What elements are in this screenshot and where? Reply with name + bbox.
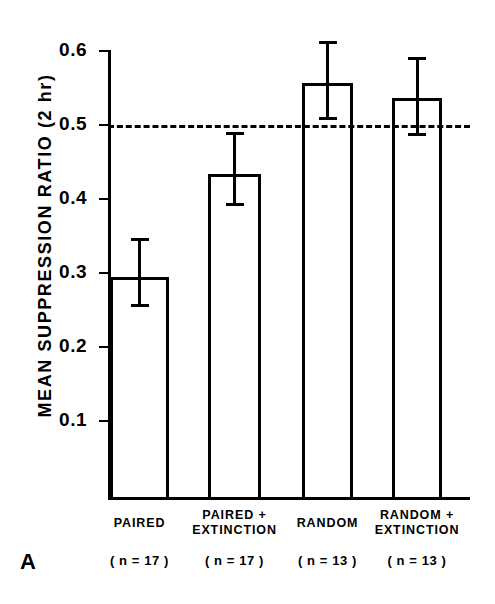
y-tick-1: 0.5 [99, 124, 108, 126]
error-bar-cap-bottom [408, 133, 426, 136]
x-axis-line [108, 497, 470, 500]
error-bar-stem [138, 238, 141, 307]
figure-panel-a: MEAN SUPPRESSION RATIO (2 hr) 0.6 0.5 0.… [0, 0, 495, 604]
error-bar-stem [416, 57, 419, 135]
y-tick-label-3: 0.3 [59, 261, 87, 283]
error-bar-cap-bottom [319, 117, 337, 120]
category-label-random-extinction: RANDOM + EXTINCTION [347, 508, 487, 538]
y-tick-4: 0.2 [99, 346, 108, 348]
panel-label: A [20, 549, 36, 575]
y-tick-label-4: 0.2 [59, 335, 87, 357]
y-tick-0: 0.6 [99, 50, 108, 52]
error-bar-paired [110, 238, 169, 307]
error-bar-cap-top [131, 238, 149, 241]
y-tick-label-1: 0.5 [59, 113, 87, 135]
error-bar-stem [326, 41, 329, 120]
plot-area: 0.6 0.5 0.4 0.3 0.2 0.1 [108, 50, 470, 497]
bar-paired [110, 277, 169, 497]
y-tick-5: 0.1 [99, 420, 108, 422]
error-bar-cap-top [408, 57, 426, 60]
error-bar-cap-bottom [226, 203, 244, 206]
y-tick-label-0: 0.6 [59, 39, 87, 61]
y-tick-2: 0.4 [99, 198, 108, 200]
y-tick-3: 0.3 [99, 272, 108, 274]
y-tick-label-5: 0.1 [59, 409, 87, 431]
bar-paired-extinction [208, 174, 261, 497]
error-bar-cap-bottom [131, 304, 149, 307]
bar-random [302, 83, 353, 497]
y-axis-title: MEAN SUPPRESSION RATIO (2 hr) [35, 16, 56, 476]
y-tick-label-2: 0.4 [59, 187, 87, 209]
error-bar-random-extinction [392, 57, 442, 135]
n-label-random-extinction: ( n = 13 ) [347, 553, 487, 568]
error-bar-stem [233, 132, 236, 207]
error-bar-cap-top [226, 132, 244, 135]
error-bar-random [302, 41, 353, 120]
bar-random-extinction [392, 98, 442, 497]
error-bar-cap-top [319, 41, 337, 44]
error-bar-paired-extinction [208, 132, 261, 207]
